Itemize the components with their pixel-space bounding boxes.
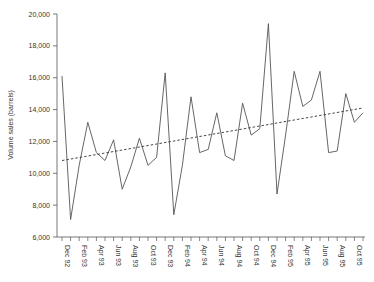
x-tick-label: Aug 94 [235,245,243,267]
x-tick-label: Apr 94 [200,245,208,266]
y-tick-label: 12,000 [29,138,51,145]
y-tick-label: 6,000 [32,234,50,241]
y-tick-label: 20,000 [29,11,51,18]
y-tick-label: 16,000 [29,74,51,81]
x-tick-label: Apr 93 [97,245,105,266]
x-tick-label: Oct 93 [150,245,157,266]
volume-sales-line [62,24,363,220]
trend-line [62,108,363,161]
x-tick-label: Dec 93 [167,245,174,267]
x-tick-label: Dec 92 [64,245,71,267]
x-tick-label: Jun 95 [322,245,329,266]
line-chart: 6,0008,00010,00012,00014,00016,00018,000… [0,0,374,282]
y-tick-label: 18,000 [29,42,51,49]
x-tick-label: Aug 93 [131,245,139,267]
y-tick-label: 8,000 [32,202,50,209]
y-axis-title: Volume sales (barrels) [7,90,15,160]
x-tick-label: Jun 93 [115,245,122,266]
x-tick-label: Dec 94 [270,245,277,267]
x-tick-label: Feb 95 [287,245,294,267]
x-tick-label: Oct 95 [356,245,363,266]
series-layer [62,24,363,220]
y-tick-label: 14,000 [29,106,51,113]
x-tick-label: Aug 95 [338,245,346,267]
x-tick-label: Oct 94 [253,245,260,266]
x-axis: Dec 92Feb 93Apr 93Jun 93Aug 93Oct 93Dec … [57,237,365,267]
x-tick-label: Jun 94 [218,245,225,266]
y-axis: 6,0008,00010,00012,00014,00016,00018,000… [29,11,57,241]
y-tick-label: 10,000 [29,170,51,177]
x-tick-label: Feb 94 [184,245,191,267]
x-tick-label: Apr 95 [303,245,311,266]
x-tick-label: Feb 93 [81,245,88,267]
